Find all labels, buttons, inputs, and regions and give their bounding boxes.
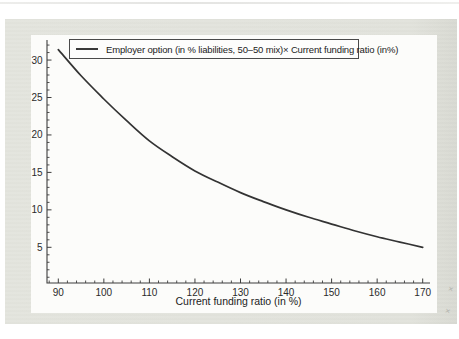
y-tick-label: 20 bbox=[31, 129, 43, 140]
x-axis-title: Current funding ratio (in %) bbox=[47, 295, 430, 307]
legend-label: Employer option (in % liabilities, 50–50… bbox=[106, 44, 398, 55]
y-tick-label: 25 bbox=[31, 92, 43, 103]
chart-figure: 9010011012013014015016017051015202530 Em… bbox=[31, 35, 437, 313]
scan-artifact: × bbox=[447, 284, 454, 294]
y-tick-label: 5 bbox=[37, 242, 43, 253]
series-curve bbox=[58, 50, 422, 248]
y-tick-label: 15 bbox=[31, 167, 43, 178]
scan-artifact: × bbox=[444, 306, 451, 316]
legend-line-sample bbox=[76, 48, 98, 50]
y-tick-label: 30 bbox=[31, 55, 43, 66]
y-tick-label: 10 bbox=[31, 204, 43, 215]
chart-plot: 9010011012013014015016017051015202530 bbox=[31, 35, 437, 313]
scan-page: 9010011012013014015016017051015202530 Em… bbox=[0, 0, 459, 339]
page-panel: 9010011012013014015016017051015202530 Em… bbox=[5, 19, 457, 324]
chart-legend: Employer option (in % liabilities, 50–50… bbox=[69, 39, 359, 59]
axis-lines bbox=[47, 40, 430, 283]
scan-artifact-line bbox=[0, 2, 459, 4]
